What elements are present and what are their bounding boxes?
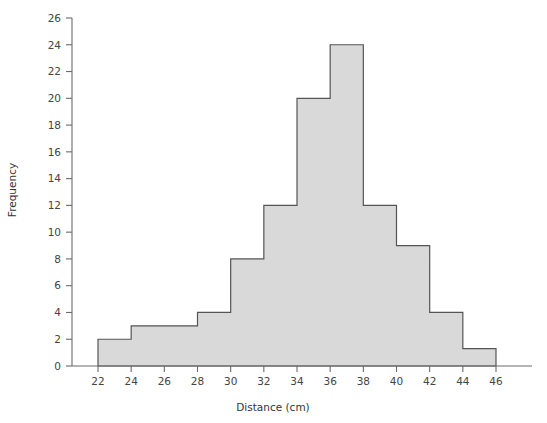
y-tick-label: 22	[48, 65, 61, 77]
x-tick-label: 30	[224, 375, 237, 387]
histogram-bar	[231, 259, 264, 366]
y-tick-label: 10	[48, 226, 61, 238]
x-tick-label: 24	[124, 375, 138, 387]
x-tick-label: 36	[323, 375, 337, 387]
histogram-chart: 02468101214161820222426 2224262830323436…	[0, 0, 547, 423]
histogram-bar	[397, 246, 430, 366]
x-tick-label: 34	[290, 375, 304, 387]
x-tick-label: 28	[191, 375, 204, 387]
x-tick-label: 46	[489, 375, 503, 387]
x-tick-label: 32	[257, 375, 270, 387]
y-tick-label: 4	[54, 306, 61, 318]
histogram-bar	[198, 312, 231, 366]
histogram-bar	[98, 339, 131, 366]
chart-canvas: 02468101214161820222426 2224262830323436…	[0, 0, 547, 423]
histogram-bar	[463, 349, 496, 366]
y-tick-label: 2	[54, 333, 61, 345]
y-tick-label: 24	[48, 39, 62, 51]
histogram-bar	[430, 312, 463, 366]
histogram-bar	[131, 326, 164, 366]
y-tick-label: 6	[54, 279, 61, 291]
y-tick-label: 14	[48, 172, 62, 184]
y-tick-label: 16	[48, 146, 62, 158]
x-tick-label: 38	[357, 375, 370, 387]
histogram-bar	[297, 98, 330, 366]
histogram-bar	[264, 205, 297, 366]
x-tick-label: 42	[423, 375, 436, 387]
y-tick-label: 0	[54, 360, 61, 372]
histogram-bar	[330, 45, 363, 366]
histogram-bar	[164, 326, 197, 366]
x-tick-label: 44	[456, 375, 470, 387]
y-tick-label: 20	[48, 92, 61, 104]
x-tick-label: 22	[91, 375, 104, 387]
x-axis-title: Distance (cm)	[236, 401, 309, 413]
histogram-bar	[363, 205, 396, 366]
y-tick-label: 8	[54, 253, 61, 265]
y-tick-label: 26	[48, 12, 62, 24]
y-tick-label: 18	[48, 119, 61, 131]
y-axis-title: Frequency	[6, 163, 18, 217]
y-tick-label: 12	[48, 199, 61, 211]
x-tick-label: 40	[390, 375, 403, 387]
x-tick-label: 26	[158, 375, 172, 387]
